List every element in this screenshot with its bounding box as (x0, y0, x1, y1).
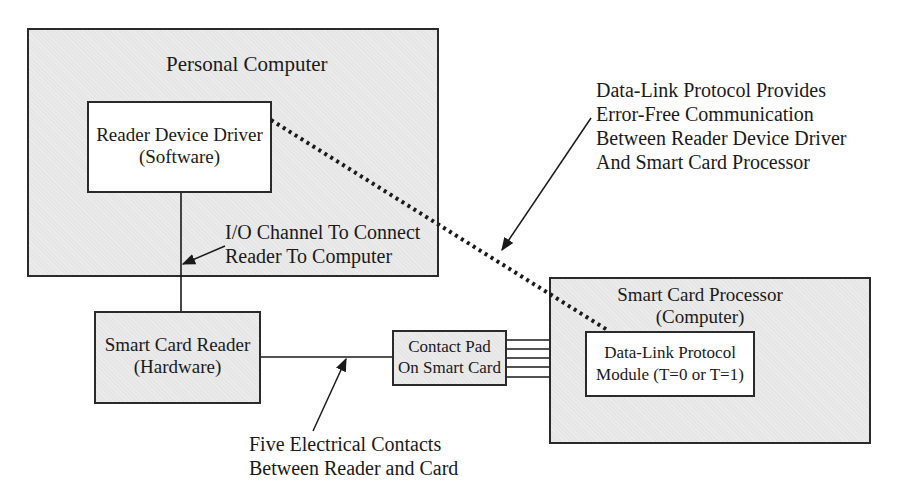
connector-layer (0, 0, 904, 489)
io-channel-arrow (183, 246, 225, 264)
contacts-arrow (313, 359, 346, 431)
five-contact-lines (507, 340, 549, 377)
data-link-arrow (502, 118, 591, 250)
data-link-dotted-line (271, 120, 609, 331)
